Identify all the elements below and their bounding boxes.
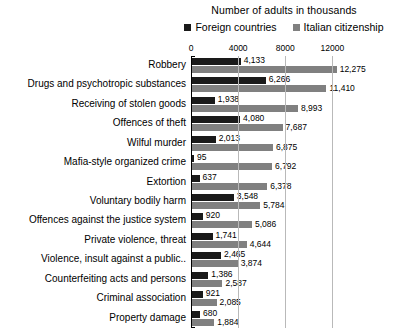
category-label: Criminal association — [0, 292, 186, 304]
category-label: Mafia-style organized crime — [0, 156, 186, 168]
bar-value-label: 2,013 — [219, 134, 240, 143]
bar-rows: 4,13312,2756,26611,4101,9388,9934,0807,6… — [191, 56, 356, 328]
category-label: Voluntary bodily harm — [0, 195, 186, 207]
bar-row: 1,3862,587 — [191, 270, 356, 289]
gridline-8000 — [285, 56, 286, 328]
bar-value-label: 2,587 — [225, 279, 246, 288]
bar-italian — [192, 299, 217, 306]
bar-italian — [192, 221, 252, 228]
bar-foreign — [192, 116, 240, 123]
bar-italian — [192, 144, 273, 151]
bar-italian — [192, 319, 214, 326]
y-axis-category-labels: RobberyDrugs and psychotropic substances… — [0, 56, 186, 328]
category-label: Receiving of stolen goods — [0, 98, 186, 110]
gridline-4000 — [238, 56, 239, 328]
category-label: Offences against the justice system — [0, 214, 186, 226]
legend-swatch-italian-citizenship — [293, 24, 300, 31]
bar-value-label: 4,133 — [244, 56, 265, 65]
bar-foreign — [192, 233, 213, 240]
category-label: Drugs and psychotropic substances — [0, 78, 186, 90]
category-label: Extortion — [0, 176, 186, 188]
bar-value-label: 6,266 — [269, 75, 290, 84]
legend-swatch-foreign-countries — [184, 24, 191, 31]
x-tick-label-0: 0 — [189, 43, 194, 53]
category-label: Private violence, threat — [0, 234, 186, 246]
bar-row: 6801,884 — [191, 309, 356, 328]
category-label: Robbery — [0, 59, 186, 71]
bar-row: 9212,085 — [191, 289, 356, 308]
bar-italian — [192, 280, 222, 287]
x-axis-tick-labels: 04000800012000 — [0, 43, 408, 56]
category-label: Offences of theft — [0, 117, 186, 129]
bar-value-label: 637 — [203, 173, 217, 182]
gridline-12000 — [332, 56, 333, 328]
bar-row: 956,792 — [191, 153, 356, 172]
bar-italian — [192, 183, 267, 190]
chart-legend: Foreign countries Italian citizenship — [160, 21, 408, 33]
bar-row: 2,4653,874 — [191, 250, 356, 269]
bar-value-label: 95 — [197, 153, 206, 162]
bar-italian — [192, 85, 326, 92]
bar-value-label: 1,938 — [218, 95, 239, 104]
bar-value-label: 1,884 — [217, 318, 238, 327]
bar-value-label: 921 — [206, 289, 220, 298]
bar-row: 6,26611,410 — [191, 75, 356, 94]
bar-foreign — [192, 77, 266, 84]
legend-label-italian-citizenship: Italian citizenship — [304, 21, 384, 33]
bar-row: 1,7414,644 — [191, 231, 356, 250]
legend-item-foreign-countries: Foreign countries — [184, 21, 276, 33]
bar-value-label: 5,784 — [263, 201, 284, 210]
bar-value-label: 7,687 — [286, 123, 307, 132]
bar-row: 6376,378 — [191, 173, 356, 192]
bar-value-label: 3,874 — [241, 259, 262, 268]
bar-chart: Number of adults in thousands Foreign co… — [0, 0, 408, 336]
bar-foreign — [192, 311, 200, 318]
bar-foreign — [192, 58, 241, 65]
category-label: Property damage — [0, 312, 186, 324]
bar-foreign — [192, 97, 215, 104]
bar-foreign — [192, 175, 200, 182]
legend-item-italian-citizenship: Italian citizenship — [293, 21, 384, 33]
bar-row: 4,0807,687 — [191, 114, 356, 133]
bar-row: 9205,086 — [191, 211, 356, 230]
bar-italian — [192, 260, 238, 267]
bar-value-label: 920 — [206, 211, 220, 220]
category-label: Violence, insult against a public.. — [0, 253, 186, 265]
bar-value-label: 4,080 — [243, 114, 264, 123]
plot-area: 4,13312,2756,26611,4101,9388,9934,0807,6… — [191, 56, 356, 328]
bar-italian — [192, 105, 298, 112]
bar-value-label: 4,644 — [250, 240, 271, 249]
x-tick-label-12000: 12000 — [321, 43, 345, 53]
category-label: Wilful murder — [0, 137, 186, 149]
bar-row: 2,0136,875 — [191, 134, 356, 153]
bar-foreign — [192, 291, 203, 298]
x-tick-label-8000: 8000 — [276, 43, 295, 53]
bar-row: 1,9388,993 — [191, 95, 356, 114]
legend-label-foreign-countries: Foreign countries — [195, 21, 276, 33]
bar-foreign — [192, 272, 208, 279]
bar-row: 4,13312,275 — [191, 56, 356, 75]
bar-value-label: 5,086 — [255, 220, 276, 229]
bar-foreign — [192, 194, 234, 201]
bar-value-label: 12,275 — [340, 65, 366, 74]
bar-foreign — [192, 155, 194, 162]
chart-title: Number of adults in thousands — [160, 4, 408, 16]
bar-value-label: 1,741 — [216, 231, 237, 240]
bar-value-label: 8,993 — [301, 104, 322, 113]
x-tick-label-4000: 4000 — [229, 43, 248, 53]
bar-italian — [192, 66, 337, 73]
bar-foreign — [192, 252, 221, 259]
bar-foreign — [192, 213, 203, 220]
bar-value-label: 6,378 — [270, 182, 291, 191]
bar-row: 3,5485,784 — [191, 192, 356, 211]
bar-value-label: 3,548 — [237, 192, 258, 201]
bar-italian — [192, 202, 260, 209]
bar-foreign — [192, 136, 216, 143]
bar-value-label: 680 — [203, 309, 217, 318]
category-label: Counterfeiting acts and persons — [0, 273, 186, 285]
bar-italian — [192, 163, 272, 170]
bar-value-label: 6,875 — [276, 143, 297, 152]
